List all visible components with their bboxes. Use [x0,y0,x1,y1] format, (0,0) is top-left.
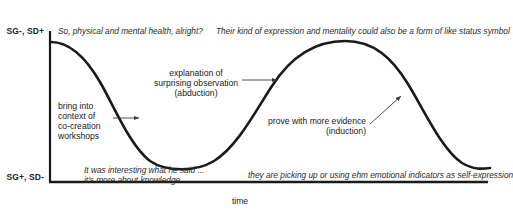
quote-top-right: Their kind of expression and mentality c… [216,27,510,37]
wave-curve [51,41,490,169]
annotation-abduction-line3: (abduction) [152,88,240,98]
y-axis-bottom-label: SG+, SD- [2,172,44,182]
annotation-co-creation-line3: co-creation [58,121,116,131]
quote-bottom-left-line2: it's more about knowledge [84,176,180,186]
annotation-induction-line2: (induction) [262,126,366,136]
x-axis-label: time [180,196,300,206]
annotation-abduction-line1: explanation of [152,68,240,78]
annotation-induction-line1: prove with more evidence [262,116,366,126]
annotation-co-creation-line1: bring into [58,101,116,111]
annotation-co-creation-line2: context of [58,111,116,121]
y-axis-top-label: SG-, SD+ [2,26,44,36]
arrow-induction [370,96,401,124]
annotation-co-creation-line4: workshops [58,131,116,141]
annotation-abduction-line2: surprising observation [152,78,240,88]
quote-bottom-right: they are picking up or using ehm emotion… [248,171,513,181]
quote-top-left: So, physical and mental health, alright? [58,27,203,37]
